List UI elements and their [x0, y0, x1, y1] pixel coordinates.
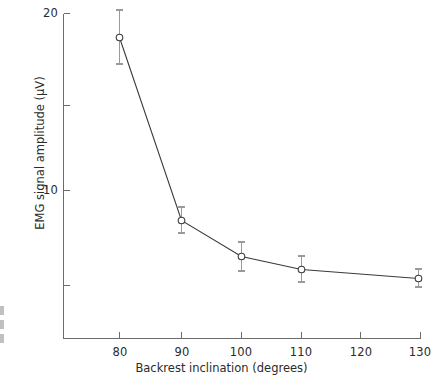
y-axis-title: EMG signal amplitude (µV)	[33, 53, 47, 253]
x-tick-label-130: 130	[400, 345, 440, 359]
data-point-130	[415, 275, 422, 282]
x-tick-label-80: 80	[100, 345, 140, 359]
x-tick-label-120: 120	[341, 345, 381, 359]
scan-artifact	[0, 334, 4, 343]
x-axis-title: Backrest inclination (degrees)	[0, 361, 443, 375]
data-point-80	[116, 34, 123, 41]
scan-artifact	[0, 306, 4, 315]
y-tick-label-20: 20	[20, 6, 58, 20]
data-point-90	[178, 217, 185, 224]
x-tick-label-110: 110	[281, 345, 321, 359]
x-tick-label-100: 100	[221, 345, 261, 359]
data-point-110	[298, 266, 305, 273]
x-tick-label-90: 90	[162, 345, 202, 359]
scan-artifact	[0, 320, 4, 329]
chart-figure: 20 10 80 90 100 110 120 130 Backrest inc…	[0, 0, 443, 383]
axis-spine	[64, 14, 421, 339]
chart-plot-area	[0, 0, 443, 383]
data-point-100	[238, 253, 245, 260]
series-line-emg	[120, 38, 419, 279]
